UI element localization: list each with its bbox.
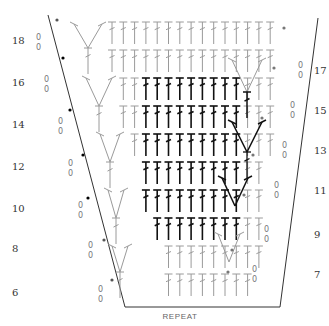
edge-dot <box>55 18 58 21</box>
stitch <box>165 106 173 128</box>
stitch <box>221 22 229 44</box>
stitch <box>198 22 206 44</box>
stitch <box>255 78 263 100</box>
stitch <box>153 22 161 44</box>
stitch <box>198 190 206 212</box>
stitch <box>243 152 251 178</box>
row-number-right: 7 <box>314 269 320 280</box>
stitch <box>108 50 116 72</box>
stitch <box>255 218 263 240</box>
stitch <box>187 274 195 296</box>
chain-mark: 0 <box>252 265 257 274</box>
chain-mark: 0 <box>68 159 73 168</box>
stitch <box>165 134 173 156</box>
row-number-left: 10 <box>12 203 25 214</box>
stitch <box>244 50 252 72</box>
stitch <box>232 162 240 184</box>
stitch <box>153 134 161 156</box>
stitch-v <box>218 176 252 206</box>
stitch <box>210 190 218 212</box>
chain-mark: 0 <box>36 43 41 52</box>
chain-mark: 0 <box>282 151 287 160</box>
stitch <box>187 190 195 212</box>
stitch <box>266 22 274 44</box>
stitch <box>198 78 206 100</box>
chain-mark: 0 <box>44 85 49 94</box>
chain-mark: 0 <box>264 225 269 234</box>
stitch <box>198 50 206 72</box>
stitch <box>165 274 173 296</box>
stitch <box>244 190 252 212</box>
stitch <box>176 274 184 296</box>
stitch <box>176 190 184 212</box>
stitch <box>244 22 252 44</box>
stitch <box>187 246 195 268</box>
stitch <box>119 22 127 44</box>
stitch <box>108 22 116 44</box>
chain-mark: 0 <box>88 241 93 250</box>
edge-dot <box>68 108 71 111</box>
edge-dot <box>110 278 113 281</box>
stitch <box>221 246 229 268</box>
stitch <box>187 50 195 72</box>
stitch-v <box>104 188 128 218</box>
stitch <box>165 246 173 268</box>
stitch <box>221 190 229 212</box>
stitch <box>210 134 218 156</box>
chain-mark: 0 <box>290 101 295 110</box>
stitch <box>198 246 206 268</box>
stitch <box>176 218 184 240</box>
stitch <box>210 274 218 296</box>
stitch <box>255 134 263 156</box>
stitch <box>119 78 127 100</box>
edge-dot <box>230 248 233 251</box>
chain-mark: 0 <box>298 61 303 70</box>
edge-dot <box>282 26 285 29</box>
stitch <box>198 134 206 156</box>
row-number-right: 9 <box>314 229 320 240</box>
stitch <box>244 218 252 240</box>
stitch-v <box>228 58 266 92</box>
stitch <box>165 22 173 44</box>
chain-mark: 0 <box>44 75 49 84</box>
stitch-v <box>70 22 106 48</box>
edge-dot <box>260 116 263 119</box>
stitch <box>153 190 161 212</box>
stitch <box>198 162 206 184</box>
edge-dot <box>272 66 275 69</box>
stitch <box>106 162 114 188</box>
chain-mark: 0 <box>68 169 73 178</box>
stitch <box>165 218 173 240</box>
stitch <box>142 50 150 72</box>
stitch <box>210 218 218 240</box>
chain-mark: 0 <box>98 285 103 294</box>
stitch <box>198 218 206 240</box>
row-number-left: 14 <box>12 119 25 130</box>
stitch <box>232 78 240 100</box>
chain-mark: 0 <box>264 235 269 244</box>
stitch <box>255 22 263 44</box>
stitch <box>131 78 139 100</box>
stitch <box>243 92 251 118</box>
stitch <box>142 106 150 128</box>
row-number-left: 16 <box>12 77 25 88</box>
stitch <box>187 134 195 156</box>
stitch <box>210 78 218 100</box>
edge-dot <box>251 153 254 156</box>
edge-dot <box>242 193 245 196</box>
chain-mark: 0 <box>78 211 83 220</box>
row-number-right: 11 <box>314 185 327 196</box>
stitch <box>153 218 161 240</box>
stitch <box>187 22 195 44</box>
stitch <box>221 134 229 156</box>
row-number-left: 6 <box>12 287 18 298</box>
chain-mark: 0 <box>298 71 303 80</box>
stitch <box>119 106 127 128</box>
row-number-right: 13 <box>314 145 327 156</box>
stitch <box>255 190 263 212</box>
stitch <box>131 106 139 128</box>
chain-mark: 0 <box>274 191 279 200</box>
stitch <box>221 218 229 240</box>
stitch <box>153 78 161 100</box>
stitch <box>255 162 263 184</box>
